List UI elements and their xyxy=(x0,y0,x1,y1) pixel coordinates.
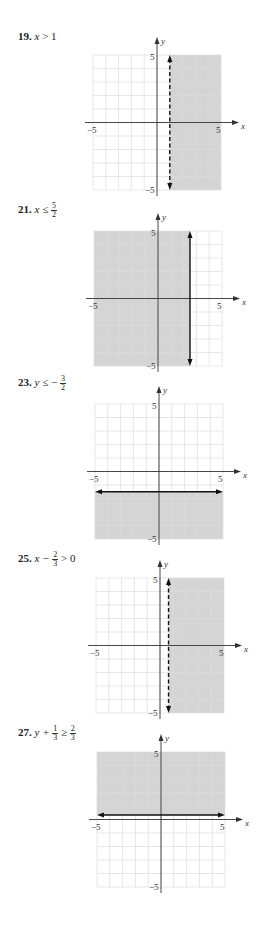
tick-y-5: 5 xyxy=(154,749,159,759)
x-axis-label: x xyxy=(244,818,249,828)
tick-x-neg5: −5 xyxy=(91,822,101,832)
tick-y-neg5: −5 xyxy=(149,882,159,892)
tick-x-5: 5 xyxy=(220,822,225,832)
y-axis-label: y xyxy=(164,733,169,743)
x-axis-arrow-icon xyxy=(236,817,243,822)
y-axis-arrow-icon xyxy=(159,734,164,741)
inequality-graph: xy−555−5 xyxy=(0,0,269,935)
